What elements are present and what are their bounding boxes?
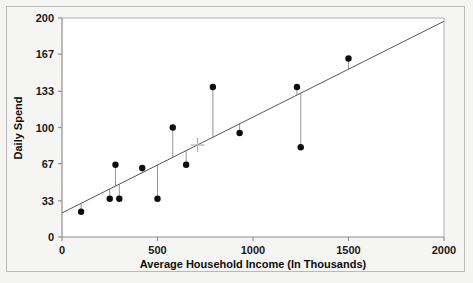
y-tick-label: 200 xyxy=(36,12,54,24)
chart-page: 03367100133167200 0500100015002000 Daily… xyxy=(0,0,473,283)
y-tick-label: 100 xyxy=(36,122,54,134)
x-axis-title: Average Household Income (In Thousands) xyxy=(140,258,367,270)
data-point xyxy=(107,195,113,201)
x-tick-label: 0 xyxy=(59,244,65,256)
data-point xyxy=(116,195,122,201)
y-tick-label: 167 xyxy=(36,48,54,60)
data-point xyxy=(294,84,300,90)
data-point xyxy=(236,130,242,136)
data-point xyxy=(139,165,145,171)
y-axis-tick-labels: 03367100133167200 xyxy=(36,12,54,243)
data-point xyxy=(298,144,304,150)
y-tick-label: 67 xyxy=(42,158,54,170)
x-tick-label: 1000 xyxy=(241,244,265,256)
data-point xyxy=(183,162,189,168)
y-tick-label: 133 xyxy=(36,85,54,97)
data-point xyxy=(170,124,176,130)
x-axis-tick-labels: 0500100015002000 xyxy=(59,244,456,256)
data-point xyxy=(112,162,118,168)
x-axis-ticks xyxy=(62,237,444,241)
y-tick-label: 33 xyxy=(42,195,54,207)
scatter-chart: 03367100133167200 0500100015002000 Daily… xyxy=(0,0,473,283)
data-point xyxy=(345,55,351,61)
data-point xyxy=(154,195,160,201)
data-point xyxy=(210,84,216,90)
x-tick-label: 2000 xyxy=(432,244,456,256)
x-tick-label: 1500 xyxy=(336,244,360,256)
plot-area-background xyxy=(62,18,444,237)
y-axis-title: Daily Spend xyxy=(12,97,24,160)
y-tick-label: 0 xyxy=(48,231,54,243)
data-point xyxy=(78,209,84,215)
x-tick-label: 500 xyxy=(148,244,166,256)
